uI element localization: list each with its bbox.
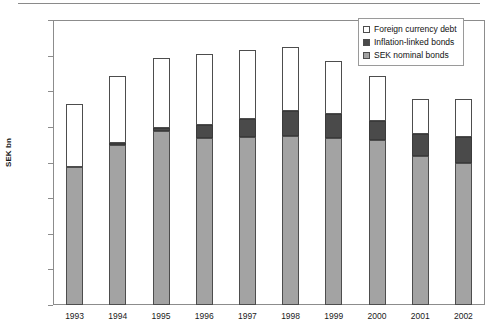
bar-segment-foreign-currency-debt[interactable] [325,61,342,114]
stacked-bar-chart: SEK bn 1,6001,4001,2001,0008006004002000… [0,0,498,334]
bar-segment-sek-nominal-bonds[interactable] [239,137,256,305]
bar-group[interactable] [153,20,170,305]
bar-segment-inflation-linked-bonds[interactable] [109,143,126,145]
bar-segment-inflation-linked-bonds[interactable] [412,134,429,156]
bar-segment-foreign-currency-debt[interactable] [369,76,386,121]
bar-group[interactable] [109,20,126,305]
bar-segment-sek-nominal-bonds[interactable] [455,163,472,306]
bar-group[interactable] [196,20,213,305]
bar-segment-inflation-linked-bonds[interactable] [325,114,342,139]
bar-segment-inflation-linked-bonds[interactable] [282,111,299,136]
legend-label: SEK nominal bonds [374,51,449,60]
x-tick-label: 1997 [227,312,267,321]
bar-segment-sek-nominal-bonds[interactable] [412,156,429,305]
bar-segment-inflation-linked-bonds[interactable] [455,137,472,163]
bar-segment-inflation-linked-bonds[interactable] [239,119,256,137]
legend-swatch-inflation [363,39,370,46]
chart-legend: Foreign currency debtInflation-linked bo… [358,18,464,66]
bar-segment-foreign-currency-debt[interactable] [412,99,429,134]
x-tick-label: 2000 [357,312,397,321]
bar-group[interactable] [66,20,83,305]
bar-segment-foreign-currency-debt[interactable] [196,54,213,125]
y-tick-mark [48,91,53,92]
y-tick-mark [48,56,53,57]
bar-segment-sek-nominal-bonds[interactable] [109,145,126,305]
bar-segment-foreign-currency-debt[interactable] [66,104,83,167]
x-tick-label: 2001 [400,312,440,321]
x-tick-label: 1994 [98,312,138,321]
bar-segment-inflation-linked-bonds[interactable] [153,128,170,132]
bar-segment-sek-nominal-bonds[interactable] [282,136,299,305]
bar-segment-sek-nominal-bonds[interactable] [369,140,386,305]
y-tick-mark [48,305,53,306]
y-tick-mark [48,198,53,199]
x-tick-label: 1996 [184,312,224,321]
legend-item[interactable]: Inflation-linked bonds [363,36,457,48]
bar-segment-foreign-currency-debt[interactable] [153,58,170,127]
y-axis-title: SEK bn [4,123,13,183]
y-tick-mark [48,269,53,270]
bar-segment-sek-nominal-bonds[interactable] [196,138,213,305]
x-tick-label: 2002 [443,312,483,321]
bar-segment-sek-nominal-bonds[interactable] [153,131,170,305]
bar-segment-inflation-linked-bonds[interactable] [369,121,386,141]
legend-label: Inflation-linked bonds [374,38,454,47]
legend-item[interactable]: SEK nominal bonds [363,49,457,61]
bar-segment-sek-nominal-bonds[interactable] [66,167,83,305]
bar-group[interactable] [282,20,299,305]
bar-group[interactable] [325,20,342,305]
bar-segment-inflation-linked-bonds[interactable] [196,125,213,138]
legend-swatch-nominal [363,52,370,59]
legend-item[interactable]: Foreign currency debt [363,23,457,35]
bar-segment-sek-nominal-bonds[interactable] [325,138,342,305]
bar-segment-foreign-currency-debt[interactable] [455,99,472,136]
legend-swatch-foreign [363,26,370,33]
legend-label: Foreign currency debt [374,25,457,34]
x-tick-label: 1999 [314,312,354,321]
x-tick-label: 1998 [271,312,311,321]
y-tick-mark [48,234,53,235]
bar-group[interactable] [239,20,256,305]
bar-segment-foreign-currency-debt[interactable] [109,76,126,143]
y-tick-mark [48,163,53,164]
y-tick-mark [48,127,53,128]
y-tick-mark [48,20,53,21]
x-tick-label: 1993 [55,312,95,321]
x-tick-label: 1995 [141,312,181,321]
bar-segment-foreign-currency-debt[interactable] [239,50,256,119]
bar-segment-foreign-currency-debt[interactable] [282,47,299,111]
